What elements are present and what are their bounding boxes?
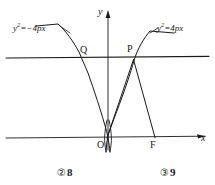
horizontal-chord-line xyxy=(6,56,209,58)
y-axis-arrowhead xyxy=(106,10,111,18)
point-label-p: P xyxy=(127,44,133,54)
point-label-q: Q xyxy=(80,45,87,55)
parabola-left-curve xyxy=(36,24,110,152)
answer-option-2[interactable]: ②8 xyxy=(57,167,72,178)
option-2-value: 8 xyxy=(67,166,73,178)
x-axis-line xyxy=(6,136,205,138)
answer-options: ②8 ③9 xyxy=(0,163,215,185)
answer-option-3[interactable]: ③9 xyxy=(160,167,175,178)
equation-right-rest: =4px xyxy=(164,23,183,33)
option-2-marker: ② xyxy=(57,167,66,178)
segment-o-to-p xyxy=(107,60,134,139)
point-label-f: F xyxy=(150,140,156,150)
math-figure-page: y2=−4px y2=4px y x Q P O F ②8 ③9 xyxy=(0,0,215,185)
equation-left-rest: =−4px xyxy=(20,23,45,33)
equation-label-left-parabola: y2=−4px xyxy=(13,22,45,33)
segment-p-to-f xyxy=(134,60,156,138)
option-3-value: 9 xyxy=(170,166,176,178)
y-axis-label: y xyxy=(98,7,102,17)
parabola-right-curve xyxy=(106,31,174,152)
x-axis-label: x xyxy=(201,133,205,143)
left-label-leader xyxy=(60,26,70,33)
point-label-o: O xyxy=(97,140,104,150)
equation-label-right-parabola: y2=4px xyxy=(157,22,183,33)
option-3-marker: ③ xyxy=(160,167,169,178)
